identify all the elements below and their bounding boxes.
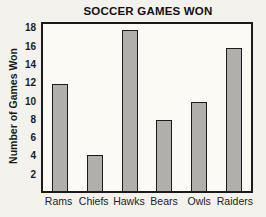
x-category-label-chiefs: Chiefs — [76, 196, 111, 207]
y-tick-label: 4 — [30, 151, 36, 161]
bar-rams — [52, 84, 68, 191]
x-category-label-hawks: Hawks — [111, 196, 146, 207]
bar-bears — [156, 120, 172, 191]
bar-raiders — [226, 48, 242, 191]
y-tick-label: 16 — [25, 42, 36, 52]
y-tick-label: 2 — [30, 170, 36, 180]
bar-hawks — [122, 30, 138, 191]
chart-title: SOCCER GAMES WON — [30, 5, 266, 17]
x-category-label-owls: Owls — [182, 196, 217, 207]
y-tick-label: 18 — [25, 23, 36, 33]
x-category-label-bears: Bears — [146, 196, 181, 207]
y-axis-tick-labels: 24681012141618 — [0, 22, 36, 193]
y-tick-label: 10 — [25, 97, 36, 107]
y-tick-label: 14 — [25, 60, 36, 70]
y-tick-label: 6 — [30, 133, 36, 143]
x-axis-category-labels: RamsChiefsHawksBearsOwlsRaiders — [41, 196, 253, 207]
bar-owls — [191, 102, 207, 191]
bars — [43, 24, 251, 191]
plot-area — [41, 22, 253, 193]
x-category-label-rams: Rams — [41, 196, 76, 207]
bar-chart-figure: SOCCER GAMES WON Number of Games Won 246… — [0, 0, 266, 217]
y-tick-label: 12 — [25, 78, 36, 88]
x-category-label-raiders: Raiders — [217, 196, 253, 207]
y-tick-label: 8 — [30, 115, 36, 125]
bar-chiefs — [87, 155, 103, 191]
